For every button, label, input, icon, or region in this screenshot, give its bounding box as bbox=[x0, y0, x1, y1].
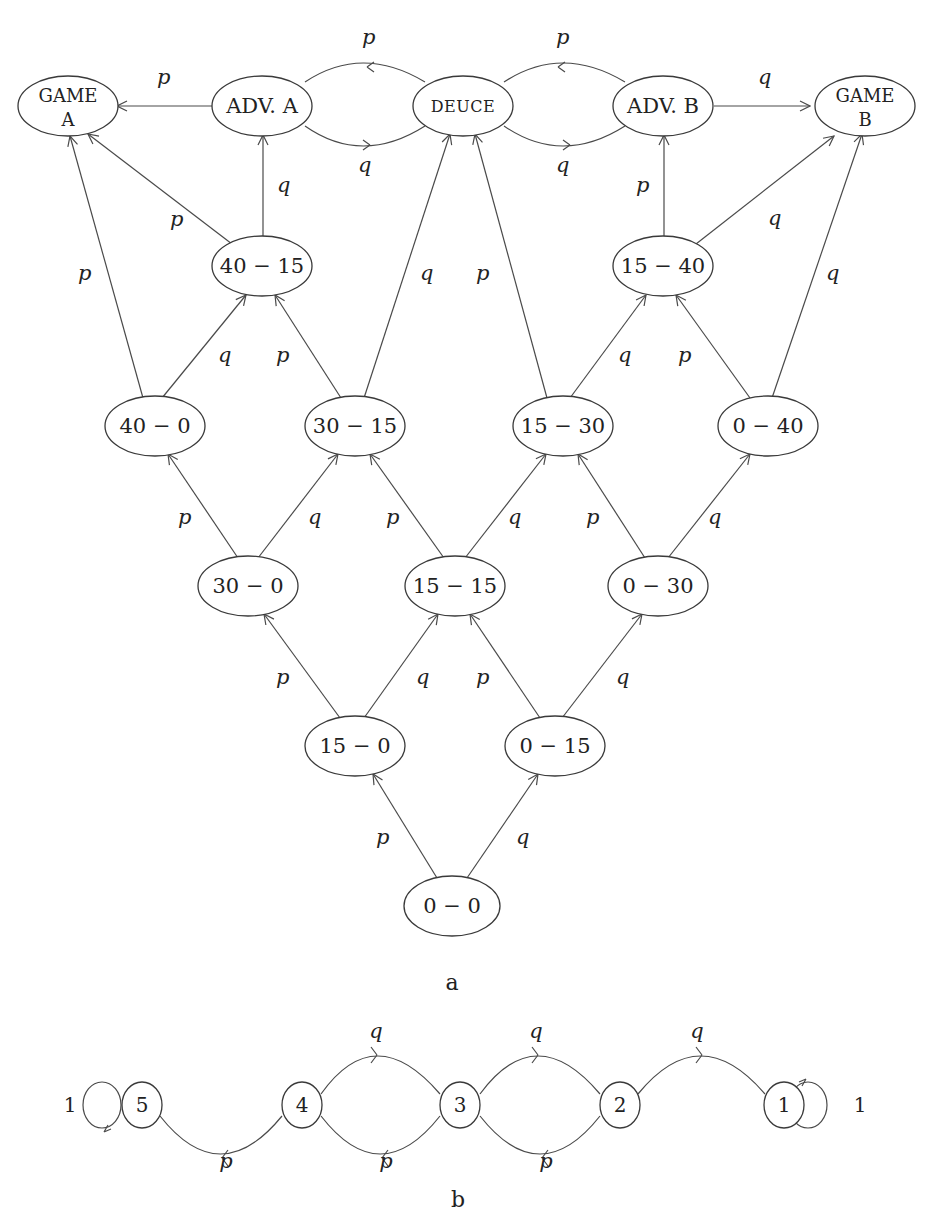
edge-b-4-3 bbox=[321, 1056, 440, 1094]
arrowhead-b-4-3 bbox=[371, 1047, 377, 1063]
caption-a: a bbox=[445, 970, 458, 995]
label-b-3-4: p bbox=[379, 1149, 392, 1173]
figure-b: 5 4 3 2 1 1 1 q q q p p p bbox=[64, 1019, 867, 1173]
label-b-3-2: q bbox=[529, 1019, 542, 1043]
edge-1530-1540 bbox=[570, 295, 646, 398]
label-1540-gameb: q bbox=[768, 206, 781, 230]
arrowhead-b-2-1 bbox=[696, 1047, 702, 1063]
svg-text:30 − 15: 30 − 15 bbox=[313, 414, 397, 438]
edge-advb-deuce bbox=[504, 63, 625, 82]
label-b-2-1: q bbox=[690, 1019, 703, 1043]
node-40-15: 40 − 15 bbox=[212, 236, 312, 296]
svg-text:40 − 0: 40 − 0 bbox=[119, 414, 190, 438]
label-4015-gamea: p bbox=[170, 207, 183, 231]
svg-text:0 − 15: 0 − 15 bbox=[519, 734, 590, 758]
label-015-030: q bbox=[616, 665, 629, 689]
label-3015-deuce: q bbox=[420, 261, 433, 285]
svg-text:30 − 0: 30 − 0 bbox=[212, 574, 283, 598]
state-2: 2 bbox=[600, 1082, 640, 1128]
label-1530-1540: q bbox=[618, 343, 631, 367]
edge-deuce-adva bbox=[305, 63, 425, 82]
node-deuce: DEUCE bbox=[413, 76, 513, 136]
self-loop-label-5: 1 bbox=[64, 1093, 77, 1117]
label-b-2-3: p bbox=[539, 1149, 552, 1173]
label-015-1515: p bbox=[476, 665, 489, 689]
label-030-040: q bbox=[708, 505, 721, 529]
label-00-015: q bbox=[516, 825, 529, 849]
state-5: 5 bbox=[122, 1082, 162, 1128]
node-game-b: GAME B bbox=[815, 76, 915, 136]
label-advb-gameb: q bbox=[758, 65, 771, 89]
label-400-gamea: p bbox=[78, 261, 91, 285]
node-15-15: 15 − 15 bbox=[405, 556, 505, 616]
svg-text:0 − 30: 0 − 30 bbox=[622, 574, 693, 598]
label-b-4-3: q bbox=[369, 1019, 382, 1043]
svg-text:DEUCE: DEUCE bbox=[431, 97, 495, 116]
svg-text:0 − 40: 0 − 40 bbox=[732, 414, 803, 438]
label-00-150: p bbox=[376, 825, 389, 849]
node-15-0: 15 − 0 bbox=[305, 716, 405, 776]
label-b-4-5: p bbox=[219, 1149, 232, 1173]
label-deuce-advb: q bbox=[556, 153, 569, 177]
node-0-0: 0 − 0 bbox=[404, 876, 500, 936]
label-040-1540: p bbox=[678, 343, 691, 367]
node-game-a: GAME A bbox=[18, 76, 118, 136]
state-1: 1 bbox=[764, 1082, 804, 1128]
svg-text:A: A bbox=[61, 109, 76, 130]
self-loop-label-1: 1 bbox=[854, 1093, 867, 1117]
svg-text:15 − 30: 15 − 30 bbox=[521, 414, 605, 438]
edge-300-3015 bbox=[258, 454, 338, 558]
label-1515-1530: q bbox=[508, 505, 521, 529]
edge-1515-1530 bbox=[465, 454, 546, 558]
node-30-15: 30 − 15 bbox=[305, 396, 405, 456]
edge-adva-deuce bbox=[305, 126, 425, 146]
figure-a-nodes: GAME A ADV. A DEUCE ADV. B GAME B 40 − 1… bbox=[18, 76, 915, 936]
figure-a-edges bbox=[70, 62, 862, 878]
node-15-40: 15 − 40 bbox=[613, 236, 713, 296]
arrowhead-adva-deuce bbox=[363, 140, 370, 150]
svg-text:5: 5 bbox=[136, 1093, 149, 1117]
edge-1515-3015 bbox=[370, 454, 444, 558]
label-150-1515: q bbox=[416, 665, 429, 689]
svg-text:15 − 15: 15 − 15 bbox=[413, 574, 497, 598]
label-adva-gamea: p bbox=[157, 65, 170, 89]
svg-text:15 − 40: 15 − 40 bbox=[621, 254, 705, 278]
state-4: 4 bbox=[282, 1082, 322, 1128]
label-030-1530: p bbox=[586, 505, 599, 529]
node-adv-a: ADV. A bbox=[212, 76, 312, 136]
node-30-0: 30 − 0 bbox=[198, 556, 298, 616]
edge-3015-deuce bbox=[364, 134, 450, 398]
label-3015-4015: p bbox=[276, 343, 289, 367]
svg-text:1: 1 bbox=[778, 1093, 791, 1117]
svg-text:3: 3 bbox=[454, 1093, 467, 1117]
state-3: 3 bbox=[440, 1082, 480, 1128]
node-0-15: 0 − 15 bbox=[505, 716, 605, 776]
node-adv-b: ADV. B bbox=[613, 76, 713, 136]
svg-text:ADV. A: ADV. A bbox=[225, 94, 298, 118]
label-400-4015: q bbox=[218, 343, 231, 367]
label-1540-advb: p bbox=[636, 173, 649, 197]
edge-deuce-advb bbox=[504, 126, 625, 146]
svg-text:15 − 0: 15 − 0 bbox=[319, 734, 390, 758]
caption-b: b bbox=[451, 1187, 465, 1212]
label-1530-deuce: p bbox=[476, 261, 489, 285]
svg-text:GAME: GAME bbox=[836, 85, 895, 106]
label-1515-3015: p bbox=[386, 505, 399, 529]
node-15-30: 15 − 30 bbox=[513, 396, 613, 456]
label-advb-deuce: p bbox=[556, 25, 569, 49]
svg-text:ADV. B: ADV. B bbox=[626, 94, 699, 118]
node-0-30: 0 − 30 bbox=[608, 556, 708, 616]
self-loop-5 bbox=[83, 1082, 121, 1128]
edge-1540-gameb bbox=[696, 136, 834, 244]
edge-b-2-1 bbox=[638, 1056, 765, 1094]
edge-400-4015 bbox=[162, 295, 246, 398]
svg-text:2: 2 bbox=[614, 1093, 627, 1117]
label-300-3015: q bbox=[308, 505, 321, 529]
svg-text:4: 4 bbox=[296, 1093, 309, 1117]
edge-b-3-2 bbox=[480, 1056, 600, 1094]
svg-text:0 − 0: 0 − 0 bbox=[423, 894, 481, 918]
arrowhead-b-3-2 bbox=[532, 1047, 538, 1063]
label-4015-adva: q bbox=[277, 173, 290, 197]
label-150-300: p bbox=[276, 665, 289, 689]
label-300-400: p bbox=[178, 505, 191, 529]
